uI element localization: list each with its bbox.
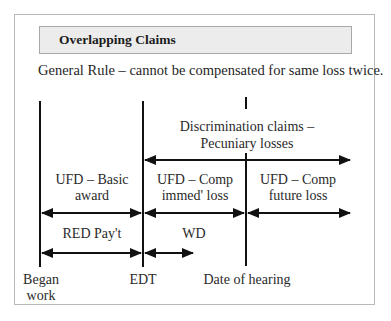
comp-immed-label-1: UFD – Comp (157, 172, 233, 187)
red-pay-label: RED Pay't (63, 226, 122, 241)
edt-label: EDT (129, 272, 157, 287)
began-work-label-1: Began (23, 272, 59, 287)
comp-future-label-2: future loss (269, 188, 328, 203)
began-work-label-2: work (27, 288, 56, 303)
basic-award-label-1: UFD – Basic (55, 172, 128, 187)
timeline-diagram: Discrimination claims – Pecuniary losses… (0, 0, 391, 321)
discrimination-label-1: Discrimination claims – (180, 119, 316, 134)
wd-label: WD (182, 226, 205, 241)
date-of-hearing-label: Date of hearing (203, 272, 290, 287)
basic-award-label-2: award (75, 188, 109, 203)
comp-immed-label-2: immed' loss (162, 188, 229, 203)
comp-future-label-1: UFD – Comp (260, 172, 336, 187)
discrimination-label-2: Pecuniary losses (201, 136, 294, 151)
